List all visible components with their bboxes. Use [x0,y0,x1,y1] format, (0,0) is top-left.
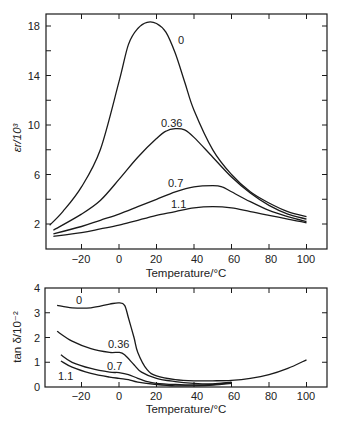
curve-label-0.7: 0.7 [107,360,122,372]
top-ytick-label: 2 [34,218,40,230]
curve-label-0.36: 0.36 [161,117,182,129]
top-xtick-label: 40 [191,253,203,265]
curve-series-0.36 [57,331,231,384]
bottom-xtick-label: 80 [265,390,277,402]
curve-label-0: 0 [178,34,184,46]
loss-tangent-plot: 4 3 2 1 0 −20 0 20 40 60 80 100 Temperat… [11,282,327,415]
permittivity-plot: 18 14 10 6 2 −20 0 20 40 60 80 100 Tempe… [11,14,327,279]
top-xtick-label: 80 [265,253,277,265]
top-xtick-label: −20 [72,253,91,265]
curve-label-0.36: 0.36 [108,338,129,350]
top-ytick-label: 10 [28,119,40,131]
curve-label-1.1: 1.1 [58,370,73,382]
bottom-xtick-label: 40 [191,390,203,402]
bottom-ytick-label: 4 [34,282,40,294]
curve-series-1.1 [61,361,232,386]
top-xtick-label: 0 [116,253,122,265]
bottom-xtick-label: 100 [297,390,315,402]
bottom-curves [57,303,306,386]
bottom-xtick-label: 60 [228,390,240,402]
top-xtick-label: 60 [228,253,240,265]
bottom-ytick-label: 1 [34,356,40,368]
top-x-axis-label: Temperature/°C [146,267,227,279]
top-y-axis-label: εr/10³ [11,122,23,152]
bottom-xtick-label: 20 [150,390,162,402]
top-xtick-label: 20 [150,253,162,265]
curve-label-1.1: 1.1 [171,198,186,210]
chart-figure: 18 14 10 6 2 −20 0 20 40 60 80 100 Tempe… [0,0,339,423]
bottom-y-axis-label: tan δ/10⁻² [11,311,23,363]
bottom-xtick-label: −20 [72,390,91,402]
curve-label-0.7: 0.7 [168,177,183,189]
bottom-ytick-label: 0 [34,381,40,393]
top-xtick-label: 100 [297,253,315,265]
curve-series-1.1 [53,207,306,237]
bottom-ytick-label: 3 [34,307,40,319]
curve-label-0: 0 [76,294,82,306]
bottom-ytick-label: 2 [34,332,40,344]
top-ytick-label: 18 [28,20,40,32]
bottom-xtick-label: 0 [116,390,122,402]
top-ytick-label: 14 [28,70,40,82]
bottom-x-axis-label: Temperature/°C [146,403,227,415]
top-ytick-label: 6 [34,169,40,181]
